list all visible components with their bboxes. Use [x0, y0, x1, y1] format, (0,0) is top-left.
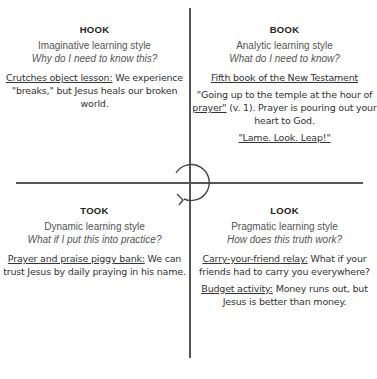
quadrant-title: TOOK [2, 205, 187, 216]
quadrant-look: LOOK Pragmatic learning style How does t… [192, 205, 377, 312]
note: Prayer and praise piggy bank: We can tru… [2, 252, 187, 278]
handwritten-notes: Crutches object lesson: We experience "b… [2, 71, 187, 110]
note: Carry-your-friend relay: What if your fr… [192, 252, 377, 278]
note-heading: Fifth book of the New Testament [211, 72, 358, 83]
learning-style: Analytic learning style [192, 39, 377, 52]
guiding-question: How does this truth work? [192, 233, 377, 246]
quadrant-title: BOOK [192, 24, 377, 35]
note-heading: Budget activity: [201, 283, 273, 294]
note-heading: Prayer and praise piggy bank: [8, 253, 145, 264]
quadrant-book: BOOK Analytic learning style What do I n… [192, 24, 377, 148]
guiding-question: What do I need to know? [192, 52, 377, 65]
note: "Lame. Look. Leap!" [192, 131, 377, 144]
note-text: "Going up to the temple at the hour of [197, 89, 372, 100]
note: Budget activity: Money runs out, but Jes… [192, 282, 377, 308]
quadrant-hook: HOOK Imaginative learning style Why do I… [2, 24, 187, 114]
learning-style: Imaginative learning style [2, 39, 187, 52]
note-heading: "Lame. Look. Leap!" [238, 132, 330, 143]
learning-style: Pragmatic learning style [192, 220, 377, 233]
quadrant-took: TOOK Dynamic learning style What if I pu… [2, 205, 187, 282]
quadrant-title: HOOK [2, 24, 187, 35]
note-text: (v. 1). Prayer is pouring out your heart… [226, 102, 376, 126]
note-keyword: prayer" [192, 102, 226, 113]
note-heading: Carry-your-friend relay: [203, 253, 308, 264]
learning-style: Dynamic learning style [2, 220, 187, 233]
note-heading: Crutches object lesson: [6, 72, 112, 83]
note: Fifth book of the New Testament [192, 71, 377, 84]
guiding-question: What if I put this into practice? [2, 233, 187, 246]
handwritten-notes: Fifth book of the New Testament "Going u… [192, 71, 377, 144]
quadrant-title: LOOK [192, 205, 377, 216]
note: Crutches object lesson: We experience "b… [2, 71, 187, 110]
handwritten-notes: Carry-your-friend relay: What if your fr… [192, 252, 377, 308]
handwritten-notes: Prayer and praise piggy bank: We can tru… [2, 252, 187, 278]
guiding-question: Why do I need to know this? [2, 52, 187, 65]
note: "Going up to the temple at the hour of p… [192, 88, 377, 127]
